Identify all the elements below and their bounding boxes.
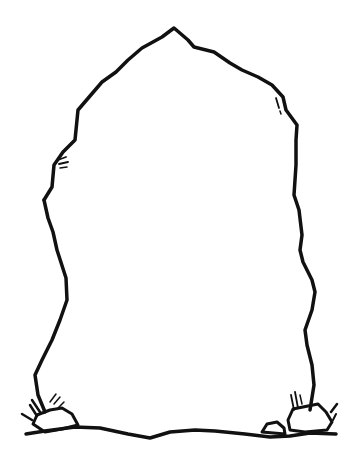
stone-texture-left — [58, 157, 68, 168]
grass-blade — [54, 397, 60, 404]
stone-left-side — [35, 200, 67, 412]
stone-texture-right — [276, 98, 281, 114]
standing-stone-illustration — [0, 0, 355, 464]
grass-blade — [50, 394, 56, 402]
texture-mark — [59, 162, 68, 164]
texture-mark — [276, 98, 279, 108]
right-rock-small — [262, 422, 285, 434]
texture-mark — [60, 167, 67, 168]
grass-blade — [333, 414, 336, 420]
grass-blade — [295, 392, 298, 408]
texture-mark — [280, 111, 281, 114]
stone-outline — [44, 28, 315, 410]
grass-blade — [22, 414, 32, 420]
grass-blade — [300, 395, 302, 404]
grass-blade — [331, 404, 337, 412]
